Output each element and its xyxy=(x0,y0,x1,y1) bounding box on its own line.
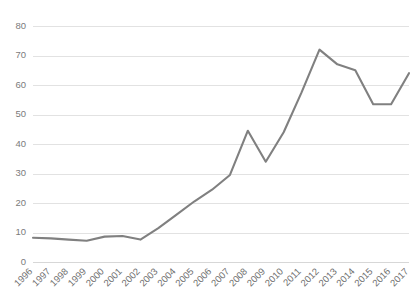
x-axis-tick-label: 2008 xyxy=(227,266,250,289)
y-axis-tick-label: 70 xyxy=(15,49,26,60)
gridlines-group xyxy=(33,27,409,263)
x-axis-tick-label: 2006 xyxy=(191,266,214,289)
y-axis-tick-label: 30 xyxy=(15,167,26,178)
y-axis-tick-label: 20 xyxy=(15,197,26,208)
x-axis-tick-label: 2012 xyxy=(298,266,321,289)
x-axis-tick-label: 2015 xyxy=(352,266,375,289)
x-axis-tick-label: 2001 xyxy=(101,266,124,289)
x-axis-tick-label: 2002 xyxy=(119,266,142,289)
x-axis-tick-label: 1999 xyxy=(65,266,88,289)
x-axis-tick-label: 2003 xyxy=(137,266,160,289)
y-axis-tick-label: 10 xyxy=(15,226,26,237)
x-axis-tick-label: 2017 xyxy=(388,266,411,289)
line-chart-figure: 01020304050607080 1996199719981999200020… xyxy=(0,0,418,295)
x-axis-tick-label: 2005 xyxy=(173,266,196,289)
x-axis-tick-label: 2010 xyxy=(262,266,285,289)
chart-canvas: 01020304050607080 1996199719981999200020… xyxy=(0,0,418,295)
y-axis-tick-label: 40 xyxy=(15,138,26,149)
y-axis-tick-labels: 01020304050607080 xyxy=(15,20,26,267)
x-axis-tick-label: 2011 xyxy=(281,266,303,288)
y-axis-tick-label: 80 xyxy=(15,20,26,31)
data-series-group xyxy=(33,50,409,241)
y-axis-tick-label: 50 xyxy=(15,108,26,119)
y-axis-tick-label: 0 xyxy=(21,256,26,267)
x-axis-tick-labels: 1996199719981999200020012002200320042005… xyxy=(12,266,411,289)
x-axis-tick-label: 2009 xyxy=(244,266,267,289)
x-axis-tick-label: 1997 xyxy=(30,266,53,289)
x-axis-tick-label: 2013 xyxy=(316,266,339,289)
x-axis-tick-label: 1998 xyxy=(47,266,70,289)
x-axis-tick-label: 1996 xyxy=(12,266,35,289)
x-axis-tick-label: 2014 xyxy=(334,266,357,289)
y-axis-tick-label: 60 xyxy=(15,79,26,90)
x-axis-tick-label: 2007 xyxy=(209,266,232,289)
x-axis-tick-label: 2016 xyxy=(370,266,393,289)
series-line-1 xyxy=(33,50,409,241)
x-axis-tick-label: 2000 xyxy=(83,266,106,289)
x-axis-tick-label: 2004 xyxy=(155,266,178,289)
